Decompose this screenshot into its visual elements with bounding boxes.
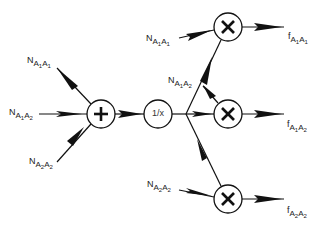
label-in-a2a2: NA2A2 [29, 157, 53, 166]
label-mul-a2a2: NA2A2 [147, 180, 171, 189]
edge-mult1-to-out [242, 23, 284, 31]
edge-branch-to-mult3 [186, 114, 221, 186]
edge-mult2-to-out [242, 110, 284, 118]
label-in-a1a2: NA1A2 [9, 108, 33, 117]
edge-mul-a2a2-to-mult3 [179, 188, 214, 197]
edge-mul-a1a2-to-mult2 [203, 85, 218, 103]
edge-branch-to-mult2 [186, 111, 214, 117]
edge-sum-to-reciprocal [115, 110, 144, 118]
mult3-node [214, 185, 242, 213]
label-mul-a1a2: NA1A2 [168, 76, 192, 85]
edge-mult3-to-out [242, 195, 284, 203]
edge-in-a2a2-to-sum [57, 124, 91, 162]
label-mul-a1a1: NA1A1 [146, 34, 170, 43]
label-in-a1a1: NA1A1 [27, 56, 51, 65]
reciprocal-symbol: 1/x [144, 108, 172, 118]
mult2-node [214, 100, 242, 128]
edge-in-a1a1-to-sum [57, 68, 91, 104]
mult1-node [214, 13, 242, 41]
edge-in-a1a2-to-sum [39, 111, 87, 117]
edge-mul-a1a1-to-mult1 [179, 30, 214, 41]
label-out-a1a1: fA1A1 [288, 32, 308, 41]
sum-node [87, 100, 115, 128]
label-out-a2a2: fA2A2 [287, 206, 307, 215]
label-out-a1a2: fA1A2 [287, 120, 307, 129]
